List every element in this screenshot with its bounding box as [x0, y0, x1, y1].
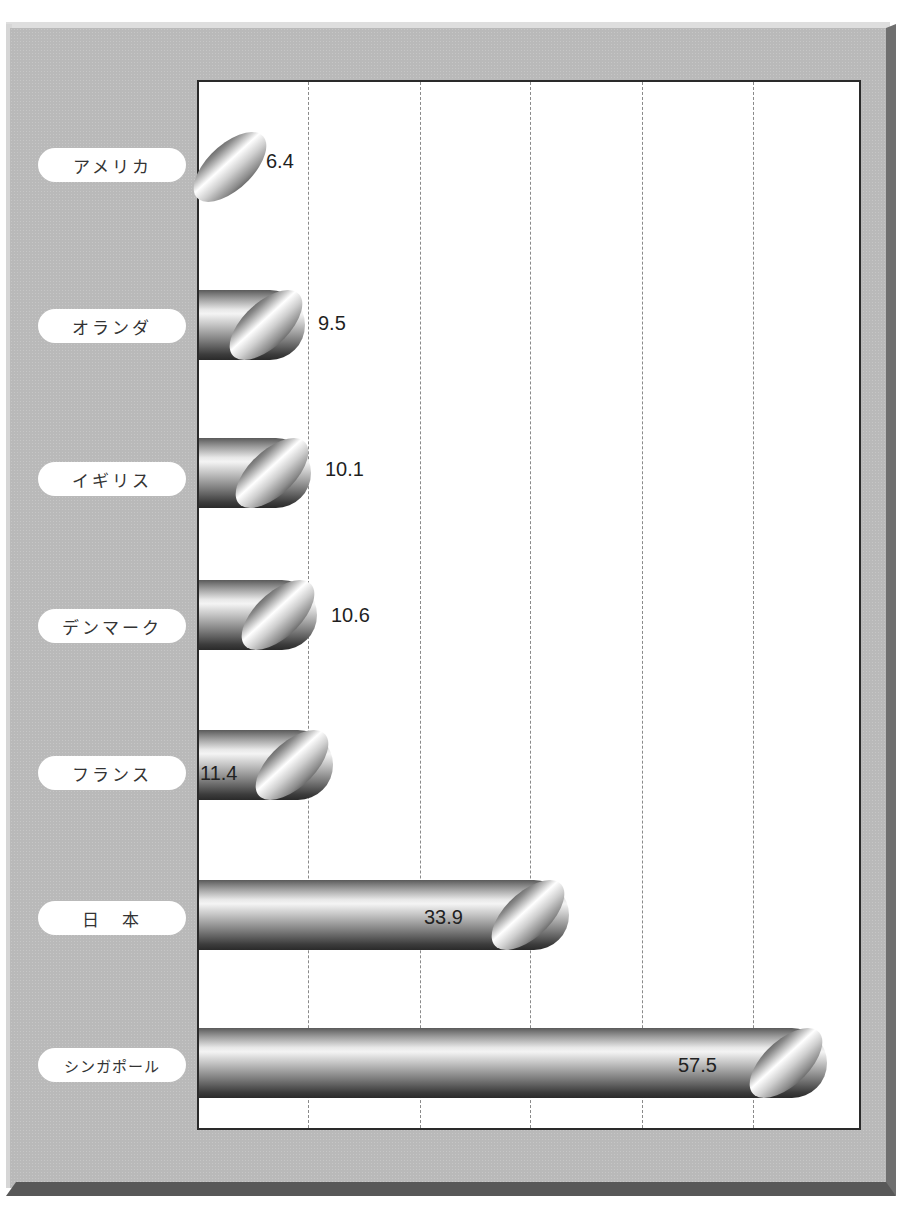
frame-bevel-right — [886, 24, 896, 1196]
value-label: 33.9 — [424, 906, 463, 929]
category-label-text: 日 本 — [82, 906, 142, 931]
gridline-20 — [420, 82, 421, 1128]
gridline-30 — [530, 82, 531, 1128]
category-label-text: デンマーク — [62, 614, 162, 639]
category-label-text: フランス — [72, 761, 152, 786]
bar-japan — [199, 880, 569, 950]
category-label-text: イギリス — [72, 467, 152, 492]
bar-uk — [199, 438, 311, 508]
category-label: 日 本 — [38, 901, 186, 935]
gridline-50 — [753, 82, 754, 1128]
gridline-40 — [642, 82, 643, 1128]
value-label: 10.6 — [331, 604, 370, 627]
value-label: 11.4 — [200, 762, 237, 785]
category-label-text: オランダ — [72, 314, 152, 339]
category-label: アメリカ — [38, 148, 186, 182]
bar-netherlands — [199, 290, 305, 360]
value-label: 6.4 — [266, 150, 294, 173]
value-label: 57.5 — [678, 1054, 717, 1077]
category-label: シンガポール — [38, 1048, 186, 1082]
value-label: 10.1 — [325, 458, 364, 481]
category-label: イギリス — [38, 462, 186, 496]
category-label: オランダ — [38, 309, 186, 343]
bar-america — [199, 132, 269, 202]
bar-singapore — [199, 1028, 827, 1098]
value-label: 9.5 — [318, 312, 346, 335]
category-label-text: アメリカ — [73, 153, 152, 178]
frame-bevel-bottom — [6, 1182, 896, 1196]
category-label: デンマーク — [38, 609, 186, 643]
category-label: フランス — [38, 756, 186, 790]
bar-denmark — [199, 580, 317, 650]
category-label-text: シンガポール — [64, 1055, 160, 1076]
